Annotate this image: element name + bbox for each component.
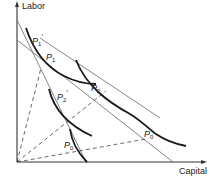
label-p2: P2 [91, 83, 101, 94]
ray-p0 [17, 139, 146, 162]
ray-p1 [17, 68, 41, 162]
y-axis-label: Labor [22, 1, 45, 11]
isocost-line-steep [17, 20, 86, 162]
y-axis-arrow-icon [15, 1, 19, 7]
x-axis-label: Capital [179, 166, 207, 176]
label-p2-prime: P2′ [57, 89, 68, 103]
label-p1-prime: P1′ [32, 33, 43, 47]
x-axis-arrow-icon [201, 160, 207, 164]
label-p1: P1 [46, 52, 56, 63]
isocost-line-p2 [40, 38, 160, 118]
isoquant-diagram: P1′ P1 P2′ P2 P0′ P0 Labor Capital [0, 0, 213, 179]
axes [15, 1, 207, 164]
isoquants [26, 28, 186, 162]
